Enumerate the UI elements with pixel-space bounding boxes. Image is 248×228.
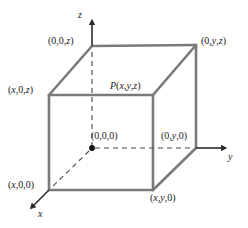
edge-top-left — [49, 46, 92, 95]
vertex-label-top-back-right: (0,y,z) — [201, 36, 226, 46]
x-axis-line — [32, 190, 49, 207]
vertex-label-top-front-left: (x,0,z) — [8, 85, 33, 95]
vertex-label-bottom-front-left: (x,0,0) — [8, 180, 34, 190]
z-axis-label: z — [78, 10, 82, 20]
vertex-label-point-p: P(x,y,z) — [110, 81, 141, 91]
edge-hidden-to-x — [51, 151, 89, 188]
edge-top-right — [153, 45, 196, 95]
vertex-label-bottom-back-right: (0,y,0) — [161, 131, 187, 141]
coordinate-cube-figure: (0,0,z) (0,y,z) (x,0,z) P(x,y,z) (0,0,0)… — [0, 0, 248, 228]
cube-solid-edges — [49, 45, 196, 190]
edge-bottom-right — [153, 148, 196, 190]
y-axis-label: y — [228, 152, 232, 162]
vertex-label-top-back-left: (0,0,z) — [48, 36, 74, 46]
x-axis-label: x — [38, 209, 42, 219]
origin-point-dot — [89, 145, 95, 151]
edge-top-back — [92, 45, 196, 46]
vertex-label-origin: (0,0,0) — [91, 131, 118, 141]
vertex-label-bottom-front-right: (x,y,0) — [150, 193, 176, 203]
